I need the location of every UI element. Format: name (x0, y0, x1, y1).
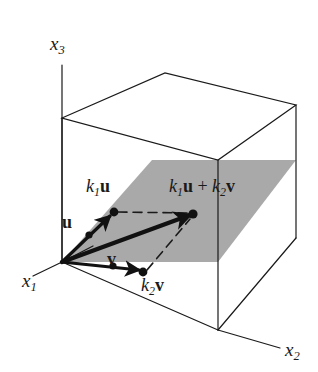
axis-label-x2-sub: 2 (293, 349, 299, 363)
dot-u-tip (85, 231, 92, 238)
vector-label-k1u-k: k (86, 176, 94, 196)
axis-x2-line (218, 330, 280, 348)
vector-label-sum-u: u (183, 176, 193, 196)
vector-label-sum: k1u + k2v (169, 177, 235, 195)
dot-sum-tip (188, 209, 197, 218)
vector-v-arrow (62, 262, 139, 270)
vector-label-k1u: k1u (86, 177, 110, 195)
vector-label-k1u-sub: 1 (94, 185, 100, 199)
vector-label-sum-v: v (226, 176, 235, 196)
axis-label-x3: x3 (50, 34, 65, 53)
axis-label-x2: x2 (285, 340, 300, 359)
vector-label-u-text: u (62, 212, 72, 232)
vector-label-k2v-v: v (155, 275, 164, 295)
vector-label-k1u-u: u (100, 176, 110, 196)
vector-label-v: v (107, 250, 116, 268)
axis-x1-line (33, 262, 62, 276)
vector-label-v-text: v (107, 249, 116, 269)
axis-label-x1-sub: 1 (30, 280, 36, 294)
box-top-face-edges (62, 73, 296, 160)
box-edge-bottom-right (218, 238, 296, 330)
vector-label-u: u (62, 213, 72, 231)
vector-label-sum-k1: k (169, 176, 177, 196)
dot-k1u-tip (110, 208, 119, 217)
vector-label-sum-sub2: 2 (220, 185, 226, 199)
vector-label-sum-plus: + (193, 176, 212, 196)
vector-label-k2v-k: k (141, 275, 149, 295)
spanned-plane-shaded-region (62, 160, 296, 262)
axis-label-x1: x1 (22, 271, 37, 290)
axis-label-x3-sub: 3 (58, 43, 64, 57)
vector-label-sum-k2: k (212, 176, 220, 196)
vector-diagram-figure (0, 0, 318, 372)
vector-label-sum-sub1: 1 (177, 185, 183, 199)
vector-label-k2v: k2v (141, 276, 164, 294)
vector-label-k2v-sub: 2 (149, 284, 155, 298)
